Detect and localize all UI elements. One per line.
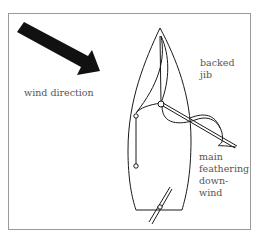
- main-feathering-label: main feathering down- wind: [199, 151, 249, 199]
- boom-icon: [163, 103, 237, 148]
- main-label-line3: down-: [199, 175, 249, 187]
- main-label-line2: feathering: [199, 163, 249, 175]
- main-label-line4: wind: [199, 187, 249, 199]
- sailboat-hull-icon: [128, 28, 191, 210]
- tiller-icon: [149, 187, 172, 224]
- fairlead-icon: [134, 164, 138, 168]
- fairlead-icon: [134, 114, 138, 118]
- wind-arrow-icon: [17, 22, 100, 75]
- wind-direction-label: wind direction: [24, 87, 94, 99]
- sailing-diagram: [0, 0, 258, 238]
- main-label-line1: main: [199, 151, 249, 163]
- backed-jib-line2: jib: [200, 69, 235, 81]
- backed-jib-label: backed jib: [200, 57, 235, 81]
- backed-jib-line1: backed: [200, 57, 235, 69]
